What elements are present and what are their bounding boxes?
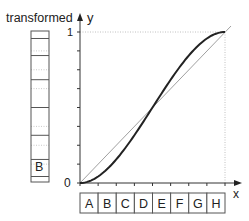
bin-c: C — [116, 193, 134, 213]
bin-label: C — [121, 197, 130, 211]
bin-f: F — [171, 193, 189, 213]
transform-diagram: ABCDEFGH — [0, 0, 249, 221]
bin-a: A — [80, 193, 98, 213]
bin-label: A — [85, 197, 94, 211]
x-bins: ABCDEFGH — [80, 193, 225, 213]
bin-label: E — [157, 197, 165, 211]
bin-g: G — [189, 193, 207, 213]
bin-e: E — [153, 193, 171, 213]
bin-label: D — [139, 197, 148, 211]
bin-label: B — [103, 197, 111, 211]
x-axis-arrow-icon — [234, 180, 242, 186]
bin-label: G — [193, 197, 203, 211]
y-axis-arrow-icon — [77, 13, 83, 21]
y-axis-label: y — [87, 12, 94, 24]
origin-label: 0 — [64, 177, 71, 189]
bin-label: H — [211, 197, 220, 211]
x-axis — [77, 180, 242, 186]
x-axis-label: x — [233, 188, 239, 200]
y-axis — [77, 13, 83, 186]
bin-b: B — [98, 193, 116, 213]
bin-label: F — [176, 197, 184, 211]
bin-h: H — [207, 193, 225, 213]
column-title: transformed — [6, 12, 73, 24]
column-highlight-label: B — [35, 161, 43, 173]
y-one-label: 1 — [67, 26, 73, 38]
bin-d: D — [134, 193, 152, 213]
